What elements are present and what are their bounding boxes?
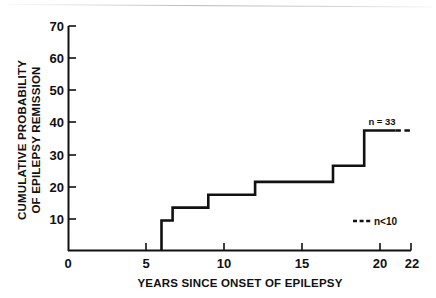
y-axis-title-line-2: OF EPILEPSY REMISSION	[30, 66, 42, 213]
x-axis-title: YEARS SINCE ONSET OF EPILEPSY	[137, 277, 342, 289]
x-axis-tick-labels: 0 5 10 15 20 22	[64, 256, 419, 271]
y-tick-label-40: 40	[50, 115, 64, 130]
y-axis-title-group: CUMULATIVE PROBABILITY OF EPILEPSY REMIS…	[16, 60, 42, 220]
y-axis-ticks	[69, 26, 77, 219]
axis-lines	[68, 26, 411, 251]
step-curve-solid	[162, 131, 396, 252]
annotation-n-33: n = 33	[368, 116, 395, 127]
x-tick-label-15: 15	[295, 256, 309, 271]
x-tick-label-5: 5	[142, 256, 149, 271]
y-tick-label-10: 10	[50, 212, 64, 227]
x-tick-label-22: 22	[405, 256, 419, 271]
y-tick-label-70: 70	[50, 19, 64, 34]
y-tick-label-20: 20	[50, 180, 64, 195]
x-tick-label-20: 20	[373, 256, 387, 271]
legend: n<10	[353, 216, 398, 227]
step-chart-plot: 70 60 50 40 30 20 10 0 5 10 15 20 22	[0, 0, 436, 298]
y-tick-label-60: 60	[50, 51, 64, 66]
x-axis-ticks	[146, 243, 411, 251]
y-axis-tick-labels: 70 60 50 40 30 20 10	[50, 19, 64, 227]
legend-label-n-lt-10: n<10	[374, 216, 398, 227]
y-axis-title-line-1: CUMULATIVE PROBABILITY	[16, 60, 28, 220]
x-tick-label-10: 10	[217, 256, 231, 271]
y-tick-label-30: 30	[50, 148, 64, 163]
x-tick-label-0: 0	[64, 256, 71, 271]
figure-panel: 70 60 50 40 30 20 10 0 5 10 15 20 22	[0, 0, 436, 298]
y-tick-label-50: 50	[50, 83, 64, 98]
data-series-group	[162, 131, 413, 252]
